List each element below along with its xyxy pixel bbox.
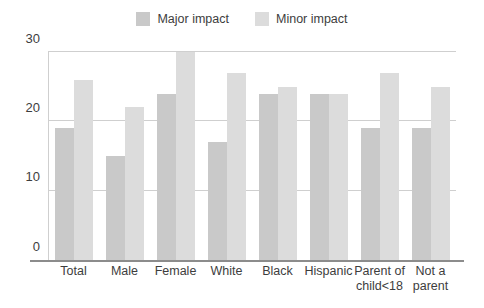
bar: [380, 73, 399, 260]
legend-swatch-major-impact: [136, 12, 150, 26]
y-tick-label-10: 10: [26, 169, 40, 184]
bar: [74, 80, 93, 260]
bars-layer: [48, 52, 456, 260]
bar: [361, 128, 380, 260]
grouped-bar-chart: Major impact Minor impact 0102030 TotalM…: [0, 0, 484, 308]
y-tick-label-0: 0: [33, 238, 40, 253]
bar-group: [405, 52, 456, 260]
bar: [106, 156, 125, 260]
bar-group: [99, 52, 150, 260]
bar: [412, 128, 431, 260]
bar: [157, 94, 176, 260]
bar: [310, 94, 329, 260]
x-tick-label-line: parent: [399, 279, 462, 294]
x-tick-label-line: Not a: [399, 264, 462, 279]
bar: [208, 142, 227, 260]
bar: [227, 73, 246, 260]
bar-group: [150, 52, 201, 260]
x-axis-baseline: [30, 260, 464, 262]
bar: [55, 128, 74, 260]
bar: [125, 107, 144, 260]
chart-legend: Major impact Minor impact: [0, 12, 484, 26]
legend-item-major-impact: Major impact: [136, 12, 229, 26]
bar: [329, 94, 348, 260]
x-tick-label: Not aparent: [399, 264, 462, 294]
bar-group: [354, 52, 405, 260]
plot-area: 0102030: [48, 52, 456, 260]
bar: [259, 94, 278, 260]
bar: [278, 87, 297, 260]
bar-group: [303, 52, 354, 260]
bar-group: [252, 52, 303, 260]
legend-label-major-impact: Major impact: [157, 12, 229, 26]
legend-swatch-minor-impact: [255, 12, 269, 26]
x-axis-labels: TotalMaleFemaleWhiteBlackHispanicParent …: [48, 264, 456, 308]
bar-group: [201, 52, 252, 260]
y-tick-label-30: 30: [26, 30, 40, 45]
legend-item-minor-impact: Minor impact: [255, 12, 348, 26]
legend-label-minor-impact: Minor impact: [276, 12, 348, 26]
bar-group: [48, 52, 99, 260]
y-tick-label-20: 20: [26, 99, 40, 114]
bar: [431, 87, 450, 260]
bar: [176, 52, 195, 260]
